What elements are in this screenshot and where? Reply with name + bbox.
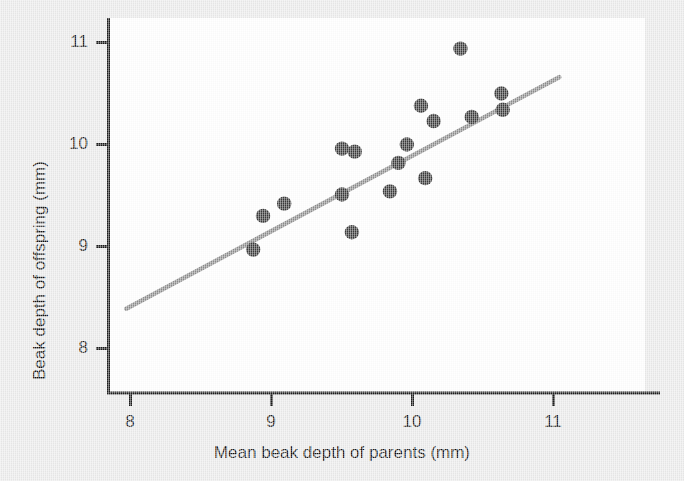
- x-tick-label-11: 11: [544, 412, 562, 432]
- data-point: [414, 99, 428, 113]
- y-axis-ticks: [96, 43, 108, 349]
- x-tick-label-8: 8: [125, 412, 134, 432]
- figure-panel: 11 10 9 8 8 9 10 11 Mean beak depth of p…: [0, 0, 684, 481]
- data-point: [494, 86, 508, 100]
- data-point: [453, 41, 467, 55]
- x-tick-label-10: 10: [403, 412, 422, 432]
- y-tick-label-10: 10: [58, 134, 88, 154]
- data-point: [383, 184, 397, 198]
- plot-area-background: [108, 18, 645, 393]
- data-point: [496, 103, 510, 117]
- data-point: [277, 196, 291, 210]
- data-point: [347, 144, 361, 158]
- x-tick-label-9: 9: [266, 412, 275, 432]
- data-point: [418, 171, 432, 185]
- data-point: [256, 209, 270, 223]
- data-point: [335, 141, 349, 155]
- data-point: [391, 156, 405, 170]
- data-point: [426, 114, 440, 128]
- data-point: [465, 110, 479, 124]
- data-point: [345, 225, 359, 239]
- y-tick-label-8: 8: [58, 338, 88, 358]
- y-tick-label-11: 11: [58, 32, 88, 52]
- data-point: [246, 242, 260, 256]
- data-point: [400, 137, 414, 151]
- y-tick-label-9: 9: [58, 236, 88, 256]
- scatter-plot: [0, 0, 684, 481]
- y-axis-title: Beak depth of offspring (mm): [30, 161, 50, 380]
- data-point: [335, 187, 349, 201]
- x-axis-ticks: [131, 393, 554, 406]
- x-axis-title: Mean beak depth of parents (mm): [0, 443, 684, 463]
